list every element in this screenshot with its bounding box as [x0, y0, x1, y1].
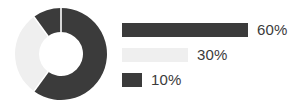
legend-item-60[interactable]: 60% — [122, 22, 288, 38]
donut-chart-svg — [14, 7, 108, 101]
legend-label-10: 10% — [151, 72, 182, 88]
percentage-donut-infographic: 60% 30% 10% — [0, 0, 306, 108]
legend-swatch-bar-30 — [122, 48, 188, 62]
legend-item-30[interactable]: 30% — [122, 47, 228, 63]
legend-label-30: 30% — [197, 47, 228, 63]
donut-slice-group — [15, 8, 107, 101]
donut-chart — [14, 7, 108, 101]
legend-swatch-bar-10 — [122, 73, 142, 87]
legend-label-60: 60% — [257, 22, 288, 38]
legend: 60% 30% 10% — [122, 20, 306, 98]
legend-item-10[interactable]: 10% — [122, 72, 182, 88]
legend-swatch-bar-60 — [122, 23, 248, 37]
